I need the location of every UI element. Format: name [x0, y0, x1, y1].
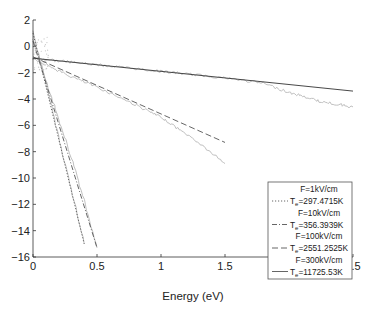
noise-point [34, 69, 35, 70]
noise-point [38, 39, 39, 40]
noise-point [45, 68, 46, 69]
noise-point [39, 69, 40, 70]
x-tick-label: 0 [30, 260, 36, 272]
fit-line-solid [33, 58, 353, 91]
noise-point [47, 37, 48, 38]
noise-point [41, 41, 42, 42]
fit-line-dash-dot [33, 41, 97, 248]
noise-point [47, 66, 48, 67]
x-tick-label: 1 [158, 260, 164, 272]
legend-field-label: F=10kV/cm [298, 208, 340, 218]
legend: F=1kV/cmTe=297.4715KF=10kV/cmTe=356.3939… [268, 182, 352, 279]
noise-point [43, 62, 44, 63]
noise-point [35, 43, 36, 44]
noise-point [35, 52, 36, 53]
legend-temp-label: Te=2551.2525K [290, 243, 348, 254]
noise-point [44, 46, 45, 47]
legend-temp-label: Te=297.4715K [290, 196, 344, 207]
noise-point [36, 49, 37, 50]
noise-point [45, 50, 46, 51]
noise-point [37, 62, 38, 63]
noise-point [37, 42, 38, 43]
y-tick-label: −4 [17, 93, 30, 105]
noise-point [43, 69, 44, 70]
noise-point [41, 42, 42, 43]
noise-point [38, 67, 39, 68]
noise-point [34, 67, 35, 68]
x-tick-label: 1.5 [217, 260, 232, 272]
noise-point [33, 54, 34, 55]
y-tick-label: −16 [11, 251, 30, 263]
chart: 20−2−4−6−8−10−12−14−1600.511.522.5 F=1kV… [0, 0, 372, 316]
legend-temp-label: Te=356.3939K [290, 220, 344, 231]
legend-field-label: F=100kV/cm [296, 231, 343, 241]
noise-point [41, 51, 42, 52]
noise-point [47, 57, 48, 58]
noise-point [46, 54, 47, 55]
noise-point [43, 38, 44, 39]
legend-field-label: F=1kV/cm [300, 184, 338, 194]
y-tick-label: −10 [11, 172, 30, 184]
noise-point [47, 50, 48, 51]
line-chart: 20−2−4−6−8−10−12−14−1600.511.522.5 F=1kV… [0, 0, 372, 316]
noise-point [47, 64, 48, 65]
y-tick-label: −2 [17, 67, 30, 79]
y-tick-label: 2 [24, 14, 30, 26]
y-tick-label: −8 [17, 146, 30, 158]
y-tick-label: 0 [24, 40, 30, 52]
noise-point [36, 44, 37, 45]
noise-point [45, 44, 46, 45]
data-series-noisy [32, 57, 353, 107]
y-tick-label: −12 [11, 198, 30, 210]
x-tick-label: 0.5 [89, 260, 104, 272]
legend-field-label: F=300kV/cm [296, 255, 343, 265]
y-tick-label: −14 [11, 225, 30, 237]
noise-point [46, 42, 47, 43]
y-tick-label: −6 [17, 119, 30, 131]
noise-point [35, 49, 36, 50]
noise-point [48, 55, 49, 56]
legend-temp-label: Te=11725.53K [290, 267, 343, 278]
x-axis-label: Energy (eV) [162, 290, 224, 302]
